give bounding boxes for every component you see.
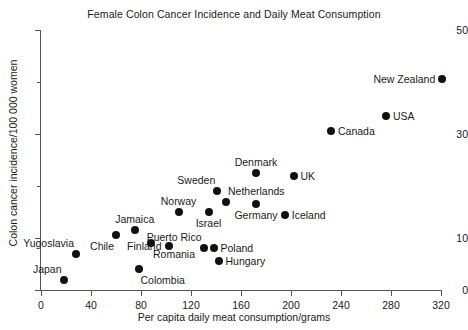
scatter-chart-figure: Female Colon Cancer Incidence and Daily … [0, 0, 468, 330]
y-axis-title: Colon cancer incidence/100 000 women [7, 43, 19, 263]
data-point [327, 127, 335, 135]
data-point [281, 211, 289, 219]
data-point-label: Puerto Rico [147, 231, 202, 243]
data-point [200, 244, 208, 252]
data-point-label: Israel [196, 217, 222, 229]
y-minor-tick [37, 186, 41, 187]
data-point [131, 226, 139, 234]
chart-title: Female Colon Cancer Incidence and Daily … [0, 8, 468, 20]
data-point-label: New Zealand [373, 73, 435, 85]
data-point-label: Poland [221, 242, 254, 254]
data-point-label: Jamaica [115, 213, 154, 225]
x-tick-label: 80 [121, 299, 161, 311]
x-tick [341, 290, 342, 296]
data-point-label: Chile [90, 240, 114, 252]
data-point [205, 208, 213, 216]
y-tick-label: 10 [440, 232, 468, 244]
data-point-label: Netherlands [228, 185, 285, 197]
x-tick-label: 240 [321, 299, 361, 311]
data-point [135, 265, 143, 273]
x-tick-label: 320 [421, 299, 461, 311]
data-point [112, 231, 120, 239]
x-tick-label: 160 [221, 299, 261, 311]
data-point-label: Canada [338, 125, 375, 137]
data-point [382, 112, 390, 120]
y-minor-tick [37, 82, 41, 83]
x-tick [141, 290, 142, 296]
y-axis-line [40, 30, 41, 291]
x-tick [41, 290, 42, 296]
data-point [213, 187, 221, 195]
data-point-label: Denmark [235, 156, 278, 168]
data-point [252, 200, 260, 208]
data-point [215, 257, 223, 265]
y-tick [35, 290, 41, 291]
data-point [290, 172, 298, 180]
x-tick [391, 290, 392, 296]
data-point [438, 75, 446, 83]
data-point [210, 244, 218, 252]
y-tick [35, 30, 41, 31]
data-point-label: UK [301, 170, 316, 182]
data-point-label: USA [393, 110, 415, 122]
x-tick [91, 290, 92, 296]
data-point [60, 276, 68, 284]
x-tick-label: 0 [21, 299, 61, 311]
data-point [252, 169, 260, 177]
data-point-label: Colombia [141, 274, 185, 286]
y-tick-label: 30 [440, 128, 468, 140]
data-point-label: Sweden [177, 174, 215, 186]
data-point [72, 250, 80, 258]
data-point-label: Iceland [292, 209, 326, 221]
x-tick-label: 200 [271, 299, 311, 311]
x-tick [241, 290, 242, 296]
y-tick-label: 50 [440, 24, 468, 36]
data-point-label: Japan [33, 263, 62, 275]
x-tick [191, 290, 192, 296]
y-tick-label: 0 [440, 284, 468, 296]
data-point-label: Hungary [226, 255, 266, 267]
x-tick-label: 40 [71, 299, 111, 311]
x-tick-label: 120 [171, 299, 211, 311]
data-point [175, 208, 183, 216]
x-tick [291, 290, 292, 296]
data-point-label: Germany [234, 209, 277, 221]
data-point [222, 198, 230, 206]
x-tick-label: 280 [371, 299, 411, 311]
x-axis-title: Per capita daily meat consumption/grams [0, 311, 468, 323]
data-point-label: Yugoslavia [23, 237, 74, 249]
data-point-label: Norway [161, 195, 197, 207]
y-tick [35, 134, 41, 135]
